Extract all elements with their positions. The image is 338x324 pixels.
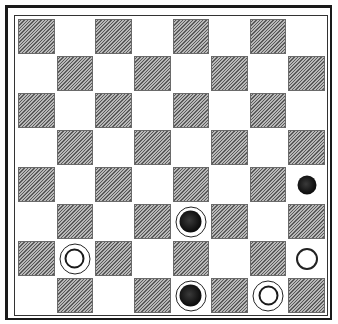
- light-square-r2c1[interactable]: [56, 92, 95, 129]
- light-square-r7c2[interactable]: [94, 277, 133, 314]
- dark-square-r0c6[interactable]: [250, 19, 287, 54]
- black-man-piece-icon[interactable]: [297, 175, 316, 194]
- dark-square-r3c5[interactable]: [211, 130, 248, 165]
- light-square-r1c6[interactable]: [249, 55, 288, 92]
- dark-square-r4c2[interactable]: [95, 167, 132, 202]
- light-square-r2c3[interactable]: [133, 92, 172, 129]
- light-square-r5c6[interactable]: [249, 203, 288, 240]
- dark-square-r6c6[interactable]: [250, 241, 287, 276]
- light-square-r5c2[interactable]: [94, 203, 133, 240]
- dark-square-r7c5[interactable]: [211, 278, 248, 313]
- dark-square-r3c1[interactable]: [57, 130, 94, 165]
- dark-square-r4c4[interactable]: [173, 167, 210, 202]
- light-square-r6c1[interactable]: [56, 240, 95, 277]
- dark-square-r5c1[interactable]: [57, 204, 94, 239]
- light-square-r0c1[interactable]: [56, 18, 95, 55]
- dark-square-r2c4[interactable]: [173, 93, 210, 128]
- white-man-piece-icon[interactable]: [296, 248, 318, 270]
- light-square-r4c1[interactable]: [56, 166, 95, 203]
- light-square-r4c7[interactable]: [287, 166, 326, 203]
- dark-square-r0c2[interactable]: [95, 19, 132, 54]
- light-square-r0c7[interactable]: [287, 18, 326, 55]
- dark-square-r1c7[interactable]: [288, 56, 325, 91]
- light-square-r2c7[interactable]: [287, 92, 326, 129]
- light-square-r4c3[interactable]: [133, 166, 172, 203]
- light-square-r4c5[interactable]: [210, 166, 249, 203]
- black-king-piece-icon[interactable]: [175, 280, 206, 311]
- black-king-piece-icon[interactable]: [175, 206, 206, 237]
- white-king-piece-icon[interactable]: [253, 280, 284, 311]
- light-square-r6c7[interactable]: [287, 240, 326, 277]
- dark-square-r2c6[interactable]: [250, 93, 287, 128]
- light-square-r1c0[interactable]: [17, 55, 56, 92]
- light-square-r3c2[interactable]: [94, 129, 133, 166]
- dark-square-r1c1[interactable]: [57, 56, 94, 91]
- dark-square-r4c0[interactable]: [18, 167, 55, 202]
- light-square-r1c4[interactable]: [172, 55, 211, 92]
- dark-square-r7c3[interactable]: [134, 278, 171, 313]
- dark-square-r0c4[interactable]: [173, 19, 210, 54]
- light-square-r2c5[interactable]: [210, 92, 249, 129]
- dark-square-r0c0[interactable]: [18, 19, 55, 54]
- light-square-r6c3[interactable]: [133, 240, 172, 277]
- dark-square-r6c0[interactable]: [18, 241, 55, 276]
- light-square-r5c0[interactable]: [17, 203, 56, 240]
- dark-square-r3c7[interactable]: [288, 130, 325, 165]
- dark-square-r6c4[interactable]: [173, 241, 210, 276]
- light-square-r1c2[interactable]: [94, 55, 133, 92]
- dark-square-r4c6[interactable]: [250, 167, 287, 202]
- light-square-r0c3[interactable]: [133, 18, 172, 55]
- light-square-r7c0[interactable]: [17, 277, 56, 314]
- dark-square-r2c0[interactable]: [18, 93, 55, 128]
- dark-square-r7c1[interactable]: [57, 278, 94, 313]
- light-square-r3c4[interactable]: [172, 129, 211, 166]
- light-square-r7c6[interactable]: [249, 277, 288, 314]
- checkers-board: [17, 18, 326, 314]
- dark-square-r2c2[interactable]: [95, 93, 132, 128]
- light-square-r5c4[interactable]: [172, 203, 211, 240]
- white-king-piece-icon[interactable]: [59, 243, 90, 274]
- dark-square-r1c3[interactable]: [134, 56, 171, 91]
- light-square-r3c0[interactable]: [17, 129, 56, 166]
- light-square-r0c5[interactable]: [210, 18, 249, 55]
- dark-square-r5c7[interactable]: [288, 204, 325, 239]
- dark-square-r5c5[interactable]: [211, 204, 248, 239]
- dark-square-r7c7[interactable]: [288, 278, 325, 313]
- dark-square-r6c2[interactable]: [95, 241, 132, 276]
- light-square-r3c6[interactable]: [249, 129, 288, 166]
- light-square-r6c5[interactable]: [210, 240, 249, 277]
- dark-square-r3c3[interactable]: [134, 130, 171, 165]
- dark-square-r5c3[interactable]: [134, 204, 171, 239]
- light-square-r7c4[interactable]: [172, 277, 211, 314]
- dark-square-r1c5[interactable]: [211, 56, 248, 91]
